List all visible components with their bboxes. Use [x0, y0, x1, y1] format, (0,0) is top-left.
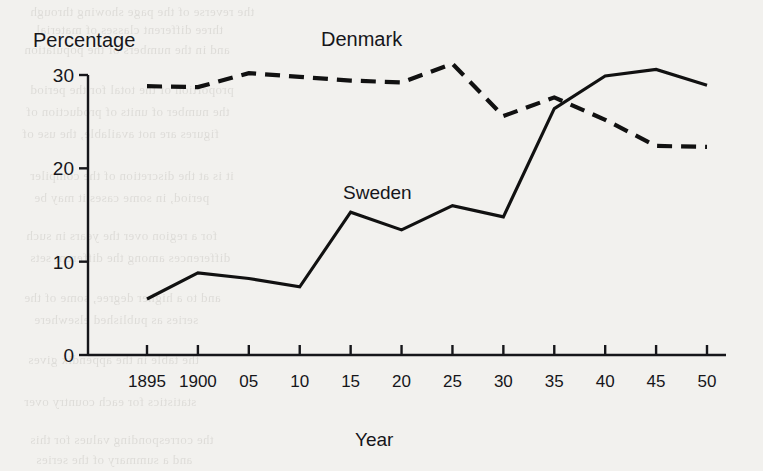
data-series: [147, 64, 707, 299]
series-line-denmark: [147, 64, 707, 147]
plot-area: [0, 0, 763, 471]
axes: [79, 75, 726, 355]
line-chart-figure: Percentage Year Denmark Sweden 0102030 1…: [0, 0, 763, 471]
series-line-sweden: [147, 69, 707, 299]
